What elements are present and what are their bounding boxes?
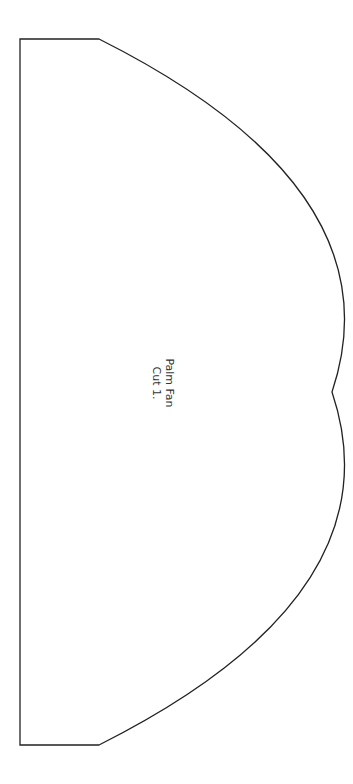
pattern-piece-outline	[0, 0, 353, 784]
palm-fan-shape	[20, 39, 345, 745]
pattern-label: Palm Fan Cut 1.	[150, 358, 176, 407]
cut-instruction: Cut 1.	[150, 358, 163, 407]
pattern-name: Palm Fan	[163, 358, 176, 407]
